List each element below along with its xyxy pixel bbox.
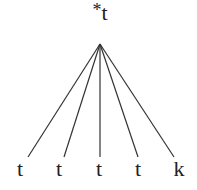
reconstructed-marker: * <box>92 0 101 20</box>
leaf-node: t <box>135 158 141 180</box>
tree-edge <box>64 44 100 157</box>
root-node: *t <box>92 2 107 24</box>
leaf-node: t <box>56 158 62 180</box>
leaf-node: t <box>96 158 102 180</box>
tree-edge <box>100 44 138 157</box>
root-node-label: t <box>101 0 107 25</box>
leaf-node: t <box>17 158 23 180</box>
tree-edge <box>28 44 100 157</box>
tree-diagram: *t t t t t k <box>0 0 197 190</box>
leaf-node: k <box>174 158 185 180</box>
tree-edge <box>100 44 174 157</box>
